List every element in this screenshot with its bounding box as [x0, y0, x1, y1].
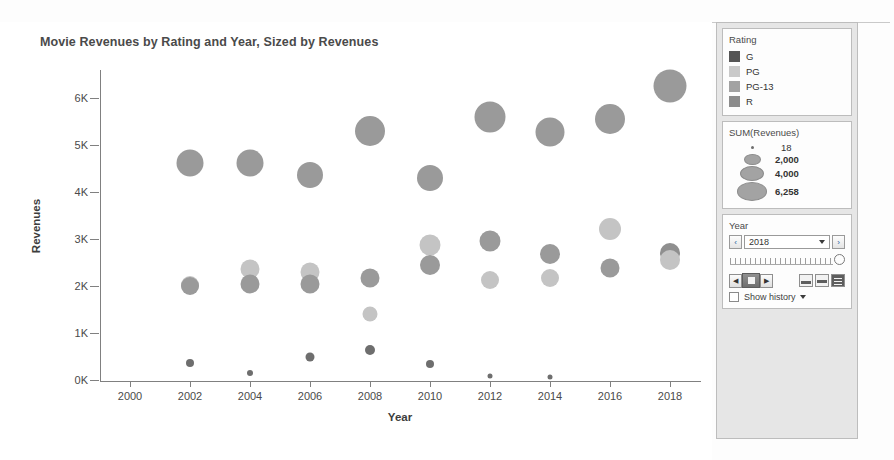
data-bubble[interactable]: [481, 271, 499, 289]
data-bubble[interactable]: [480, 230, 501, 251]
size-legend-marker: [737, 182, 767, 201]
data-bubble[interactable]: [654, 70, 687, 103]
data-bubble[interactable]: [426, 360, 434, 368]
data-bubble[interactable]: [599, 218, 621, 240]
data-bubble[interactable]: [420, 234, 441, 255]
size-legend-marker: [744, 154, 761, 165]
data-bubble[interactable]: [595, 104, 625, 134]
size-legend-items: 182,0004,0006,258: [729, 142, 845, 201]
data-bubble[interactable]: [301, 275, 320, 294]
data-bubble[interactable]: [417, 165, 443, 191]
chart-title: Movie Revenues by Rating and Year, Sized…: [40, 35, 378, 49]
legend-panel: Rating GPGPG-13R SUM(Revenues) 182,0004,…: [716, 22, 858, 439]
size-legend-item: 2,000: [729, 154, 845, 165]
y-tick: [90, 239, 99, 240]
view-list-bar-3: [834, 284, 842, 285]
y-tick: [90, 145, 99, 146]
plot-bubbles: [100, 70, 700, 380]
year-slider-thumb[interactable]: [834, 254, 845, 265]
size-legend-marker-cell: [729, 146, 775, 149]
rating-legend-label: PG-13: [746, 81, 773, 92]
rating-legend-card: Rating GPGPG-13R: [722, 28, 852, 116]
show-history-label: Show history: [744, 292, 796, 302]
view-compact-icon[interactable]: [799, 274, 813, 287]
data-bubble[interactable]: [660, 250, 680, 270]
data-bubble[interactable]: [361, 269, 380, 288]
y-axis-title: Revenues: [30, 199, 42, 253]
rating-color-swatch: [729, 66, 740, 77]
data-bubble[interactable]: [177, 150, 204, 177]
size-legend-marker: [740, 166, 764, 181]
size-legend-item: 18: [729, 142, 845, 153]
y-tick-label: 2K: [60, 280, 88, 292]
rating-legend-item[interactable]: G: [729, 49, 845, 64]
rating-color-swatch: [729, 51, 740, 62]
data-bubble[interactable]: [601, 259, 620, 278]
size-legend-label: 18: [775, 142, 792, 153]
data-bubble[interactable]: [540, 244, 560, 264]
playback-controls-row: ◀ ▶: [729, 273, 845, 288]
size-legend-item: 6,258: [729, 182, 845, 201]
rating-color-swatch: [729, 81, 740, 92]
view-single-icon[interactable]: [815, 274, 829, 287]
size-legend-card: SUM(Revenues) 182,0004,0006,258: [722, 121, 852, 209]
view-list-icon[interactable]: [831, 274, 845, 287]
y-tick: [90, 192, 99, 193]
x-tick: [130, 381, 131, 387]
rating-legend-label: PG: [746, 66, 760, 77]
rating-legend-item[interactable]: PG-13: [729, 79, 845, 94]
data-bubble[interactable]: [420, 255, 440, 275]
x-tick-label: 2018: [658, 390, 682, 402]
data-bubble[interactable]: [475, 101, 506, 132]
year-slider[interactable]: [729, 254, 845, 268]
year-filter-title: Year: [729, 220, 845, 231]
data-bubble[interactable]: [365, 345, 375, 355]
year-prev-button[interactable]: ‹: [729, 235, 742, 249]
data-bubble[interactable]: [297, 162, 323, 188]
rating-legend-item[interactable]: PG: [729, 64, 845, 79]
y-tick-label: 3K: [60, 233, 88, 245]
x-tick-label: 2014: [538, 390, 562, 402]
view-list-bar-1: [834, 278, 842, 279]
show-history-chevron-down-icon[interactable]: [800, 295, 806, 299]
size-legend-marker-cell: [729, 166, 775, 181]
x-tick: [370, 381, 371, 387]
y-tick: [90, 333, 99, 334]
chevron-down-icon: [819, 240, 825, 244]
data-bubble[interactable]: [488, 373, 493, 378]
step-back-button[interactable]: ◀: [729, 274, 742, 288]
data-bubble[interactable]: [306, 352, 315, 361]
show-history-checkbox[interactable]: [729, 292, 739, 302]
view-single-bar: [817, 280, 827, 283]
data-bubble[interactable]: [186, 359, 194, 367]
data-bubble[interactable]: [237, 149, 264, 176]
x-tick: [550, 381, 551, 387]
data-bubble[interactable]: [541, 269, 559, 287]
y-tick-label: 0K: [60, 374, 88, 386]
play-stop-button[interactable]: [742, 273, 760, 288]
x-tick: [310, 381, 311, 387]
data-bubble[interactable]: [355, 116, 385, 146]
data-bubble[interactable]: [536, 117, 565, 146]
x-tick: [190, 381, 191, 387]
x-tick-label: 2012: [478, 390, 502, 402]
data-bubble[interactable]: [181, 277, 199, 295]
x-tick-label: 2006: [298, 390, 322, 402]
year-next-button[interactable]: ›: [832, 235, 845, 249]
year-slider-track[interactable]: [730, 258, 833, 265]
rating-legend-items: GPGPG-13R: [729, 49, 845, 109]
data-bubble[interactable]: [247, 370, 253, 376]
x-tick-label: 2016: [598, 390, 622, 402]
y-tick: [90, 98, 99, 99]
size-legend-label: 4,000: [775, 168, 799, 179]
rating-legend-label: R: [746, 96, 753, 107]
data-bubble[interactable]: [241, 274, 260, 293]
show-history-row[interactable]: Show history: [729, 292, 845, 302]
year-selector-row: ‹ 2018 ›: [729, 235, 845, 249]
data-bubble[interactable]: [363, 307, 378, 322]
data-bubble[interactable]: [548, 375, 553, 380]
year-dropdown[interactable]: 2018: [744, 235, 830, 249]
rating-legend-item[interactable]: R: [729, 94, 845, 109]
step-forward-button[interactable]: ▶: [760, 274, 773, 288]
view-mode-buttons: [797, 274, 845, 287]
